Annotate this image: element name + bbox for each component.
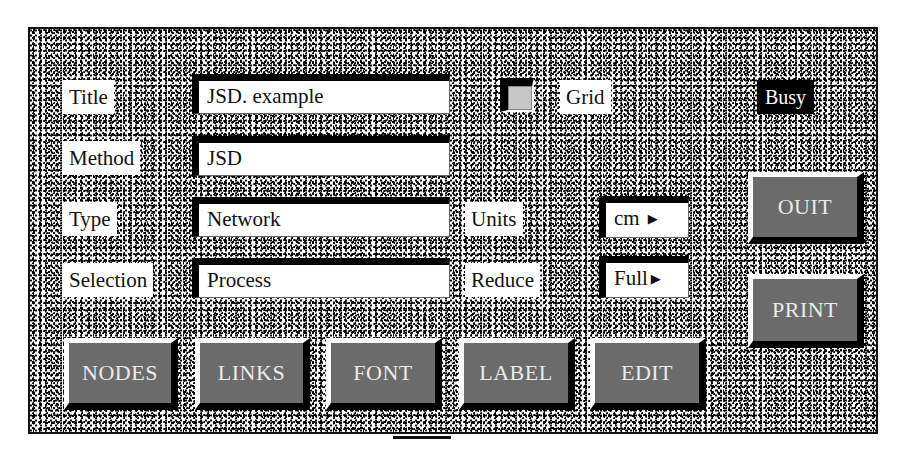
grid-label: Grid (560, 80, 611, 114)
title-input[interactable]: JSD. example (192, 74, 450, 114)
units-label: Units (465, 202, 523, 236)
label-button[interactable]: LABEL (459, 338, 575, 410)
dropdown-arrow-icon: ▶ (648, 211, 658, 226)
units-value: cm (614, 206, 640, 230)
reduce-label: Reduce (465, 263, 540, 297)
print-button[interactable]: PRINT (748, 274, 864, 348)
reduce-value: Full (614, 266, 648, 290)
title-label: Title (63, 80, 114, 114)
method-input[interactable]: JSD (192, 136, 450, 176)
links-button[interactable]: LINKS (195, 338, 310, 410)
selection-input[interactable]: Process (192, 258, 450, 298)
units-dropdown[interactable]: cm▶ (599, 196, 689, 238)
method-label: Method (63, 141, 140, 175)
checkbox-fill (508, 86, 532, 110)
edit-button[interactable]: EDIT (590, 338, 706, 410)
dropdown-arrow-icon: ▶ (651, 271, 661, 286)
grid-checkbox[interactable] (500, 78, 534, 112)
busy-status-badge: Busy (757, 80, 814, 114)
type-label: Type (63, 202, 117, 236)
divider (393, 436, 451, 439)
font-button[interactable]: FONT (326, 338, 442, 410)
type-input[interactable]: Network (192, 197, 450, 237)
selection-label: Selection (63, 263, 153, 297)
nodes-button[interactable]: NODES (64, 338, 178, 410)
quit-button[interactable]: OUIT (748, 172, 864, 244)
reduce-dropdown[interactable]: Full▶ (599, 256, 689, 298)
